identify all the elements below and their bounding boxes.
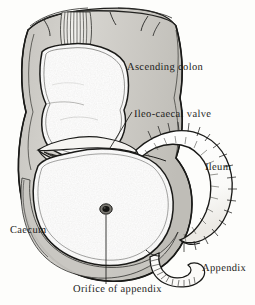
anatomical-figure: Ascending colon Ileo-caecal valve Ileum … <box>0 0 255 305</box>
label-appendix: Appendix <box>202 264 246 275</box>
orifice-of-appendix <box>100 204 112 214</box>
label-caecum: Caecum <box>10 226 47 237</box>
appendix <box>146 250 205 287</box>
anatomy-illustration <box>0 0 255 305</box>
label-ascending-colon: Ascending colon <box>127 63 203 74</box>
label-ileo-caecal-valve: Ileo-caecal valve <box>134 110 211 121</box>
label-ileum: Ileum <box>205 163 231 174</box>
label-orifice-of-appendix: Orifice of appendix <box>73 285 162 296</box>
